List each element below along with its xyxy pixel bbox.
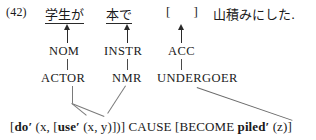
- ls-use-args: (x, y)])]: [80, 119, 125, 134]
- predicate-verb: 山積みにした.: [213, 4, 295, 23]
- case-label-acc: ACC: [168, 44, 195, 59]
- macrorole-label-actor: ACTOR: [41, 71, 85, 86]
- case-label-nom: NOM: [49, 44, 79, 59]
- noun-phrase-instrument-text: 本で: [106, 7, 132, 24]
- ls-predicate-use: use: [58, 119, 76, 134]
- link-actor-stem: [72, 86, 73, 103]
- noun-phrase-subject: 学生が: [45, 4, 84, 23]
- macrorole-label-nmr: NMR: [112, 71, 142, 86]
- link-actor-to-nom: [67, 59, 68, 70]
- arrow-stem-instr: [127, 30, 128, 43]
- ls-predicate-piled: piled: [238, 119, 266, 134]
- ls-operator-become: [BECOME: [175, 119, 238, 134]
- link-nmr-to-instr: [127, 59, 128, 70]
- noun-phrase-subject-text: 学生が: [45, 7, 84, 24]
- ls-do-args-open: (x, [: [32, 119, 58, 134]
- arrow-stem-nom: [67, 30, 68, 43]
- example-number: (42): [6, 5, 27, 20]
- noun-phrase-gap: [ ]: [166, 4, 208, 20]
- case-label-instr: INSTR: [104, 44, 142, 59]
- noun-phrase-instrument: 本で: [106, 4, 132, 23]
- link-actor-fork-right: [72, 103, 105, 117]
- macrorole-label-undergoer: UNDERGOER: [157, 71, 238, 86]
- arrow-stem-acc: [181, 30, 182, 43]
- link-undergoer-to-z: [197, 87, 293, 121]
- logical-structure: [do′ (x, [use′ (x, y)])] CAUSE [BECOME p…: [10, 119, 292, 135]
- ls-piled-args: (z)]: [269, 119, 292, 134]
- link-undergoer-to-acc: [181, 59, 182, 70]
- ls-predicate-do: do: [14, 119, 28, 134]
- link-nmr-to-y: [107, 85, 126, 113]
- ls-operator-cause: CAUSE: [125, 119, 175, 134]
- rrg-linking-diagram: (42) 学生が 本で [ ] 山積みにした. NOM INSTR ACC AC…: [0, 0, 316, 140]
